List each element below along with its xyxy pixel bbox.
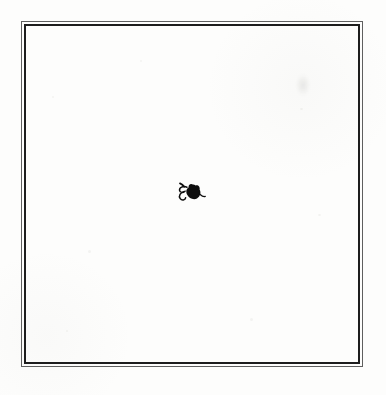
scanned-page [0,0,386,395]
fleuron-leaf-icon [176,182,206,205]
